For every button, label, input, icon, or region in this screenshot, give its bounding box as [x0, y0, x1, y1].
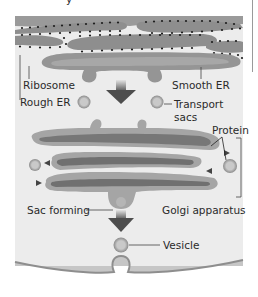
golgi-side-sac-left [29, 159, 41, 171]
vesicle [114, 238, 129, 253]
golgi-side-sac-right [223, 159, 237, 173]
label-smooth-er: Smooth ER [172, 79, 230, 91]
transport-sac-left [78, 96, 91, 109]
title-fragment: y [66, 0, 72, 5]
label-ribosome: Ribosome [23, 79, 75, 91]
label-rough-er: Rough ER [20, 96, 71, 108]
label-transport-line2: sacs [174, 111, 197, 123]
label-protein: Protein [212, 124, 249, 136]
transport-sac-right [151, 96, 164, 109]
label-sac-forming: Sac forming [27, 204, 90, 216]
label-transport-line1: Transport [173, 98, 223, 110]
label-golgi-apparatus: Golgi apparatus [162, 204, 246, 216]
label-vesicle: Vesicle [163, 239, 199, 251]
protein-pathway-diagram: y Ribosome [0, 0, 258, 297]
